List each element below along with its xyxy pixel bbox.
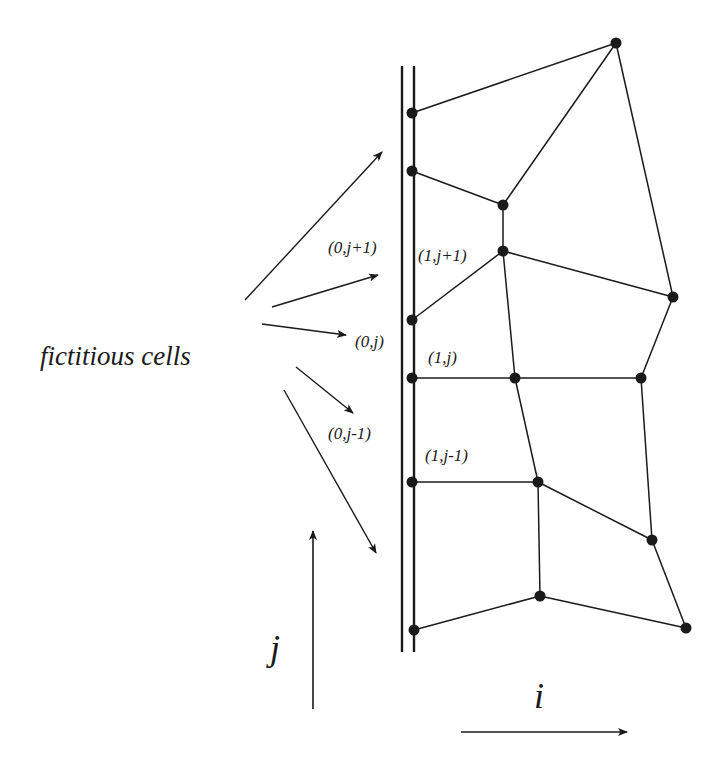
mesh-node bbox=[407, 477, 418, 488]
mesh-node bbox=[647, 535, 658, 546]
pointer-arrow bbox=[245, 152, 382, 300]
mesh-node bbox=[510, 373, 521, 384]
mesh-nodes bbox=[407, 38, 692, 636]
cell-labels: (0,j+1)(1,j+1)(0,j)(1,j)(0,j-1)(1,j-1) bbox=[328, 238, 468, 465]
mesh-node bbox=[668, 292, 679, 303]
mesh-node bbox=[409, 625, 420, 636]
mesh-edge bbox=[641, 378, 652, 540]
mesh-edges bbox=[412, 43, 686, 630]
mesh-node bbox=[498, 246, 509, 257]
mesh-node bbox=[681, 623, 692, 634]
mesh-edge bbox=[412, 171, 503, 205]
mesh-edge bbox=[538, 482, 652, 540]
mesh-node bbox=[407, 315, 418, 326]
pointer-arrow bbox=[272, 275, 378, 307]
fictitious-cell-pointers bbox=[245, 152, 382, 553]
mesh-node bbox=[611, 38, 622, 49]
mesh-edge bbox=[540, 596, 686, 628]
mesh-edge bbox=[538, 482, 540, 596]
mesh-diagram: (0,j+1)(1,j+1)(0,j)(1,j)(0,j-1)(1,j-1) f… bbox=[0, 0, 727, 775]
cell-label-1-jp1: (1,j+1) bbox=[418, 246, 467, 265]
mesh-edge bbox=[414, 596, 540, 630]
i-axis-label: i bbox=[534, 676, 544, 716]
mesh-edge bbox=[503, 251, 673, 297]
index-axes: j i bbox=[266, 531, 627, 732]
cell-label-1-jm1: (1,j-1) bbox=[425, 446, 468, 465]
cell-label-0-j: (0,j) bbox=[355, 332, 384, 351]
pointer-arrow bbox=[262, 324, 346, 335]
pointer-arrow bbox=[284, 390, 376, 553]
cell-label-0-jm1: (0,j-1) bbox=[328, 424, 371, 443]
pointer-arrow bbox=[296, 367, 353, 413]
cell-label-0-jp1: (0,j+1) bbox=[328, 238, 377, 257]
mesh-edge bbox=[652, 540, 686, 628]
mesh-edge bbox=[503, 43, 616, 205]
mesh-node bbox=[636, 373, 647, 384]
mesh-edge bbox=[412, 43, 616, 113]
mesh-edge bbox=[515, 378, 538, 482]
cell-label-1-j: (1,j) bbox=[428, 348, 457, 367]
mesh-node bbox=[407, 108, 418, 119]
mesh-node bbox=[407, 373, 418, 384]
mesh-edge bbox=[616, 43, 673, 297]
j-axis-label: j bbox=[266, 628, 280, 668]
wall-boundary bbox=[402, 66, 414, 652]
mesh-node bbox=[535, 591, 546, 602]
mesh-node bbox=[533, 477, 544, 488]
fictitious-cells-label: fictitious cells bbox=[40, 341, 191, 371]
mesh-node bbox=[498, 200, 509, 211]
mesh-edge bbox=[503, 251, 515, 378]
mesh-edge bbox=[641, 297, 673, 378]
mesh-node bbox=[407, 166, 418, 177]
